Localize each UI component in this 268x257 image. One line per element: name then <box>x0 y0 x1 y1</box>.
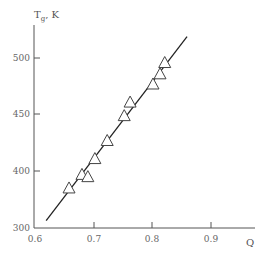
triangle-marker <box>159 57 171 68</box>
x-axis-title: Q <box>246 237 254 248</box>
y-tick-label: 300 <box>13 223 30 233</box>
x-tick-label: 0.9 <box>204 234 219 244</box>
triangle-marker <box>89 153 101 164</box>
data-markers <box>63 57 171 193</box>
y-tick-label: 450 <box>13 109 30 119</box>
x-tick-labels: 0.6 0.7 0.8 0.9 <box>28 234 219 244</box>
triangle-marker <box>124 96 136 107</box>
chart: 300 400 450 500 0.6 0.7 0.8 0.9 Q Tg, K <box>0 0 268 257</box>
triangle-marker <box>147 78 159 89</box>
y-ticks <box>34 58 40 171</box>
x-tick-label: 0.6 <box>28 234 43 244</box>
triangle-marker <box>118 110 130 121</box>
y-tick-label: 500 <box>13 53 30 63</box>
y-tick-labels: 300 400 450 500 <box>13 53 30 233</box>
triangle-marker <box>154 68 166 79</box>
x-tick-label: 0.7 <box>87 234 102 244</box>
y-axis-title: Tg, K <box>34 9 60 23</box>
x-ticks <box>94 222 211 228</box>
y-tick-label: 400 <box>13 166 30 176</box>
triangle-marker <box>63 182 75 193</box>
x-tick-label: 0.8 <box>145 234 160 244</box>
